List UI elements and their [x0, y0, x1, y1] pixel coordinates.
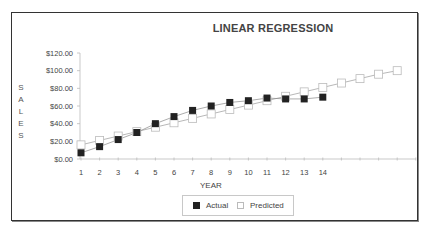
x-tick-label: 10: [244, 168, 252, 177]
y-tick-label: $60.00: [50, 102, 73, 111]
x-axis-label: YEAR: [200, 181, 222, 190]
x-tick-label: 13: [300, 168, 308, 177]
actual-point: [133, 129, 140, 136]
actual-point: [208, 103, 215, 110]
actual-point: [78, 149, 85, 156]
y-tick-label: $20.00: [50, 137, 73, 146]
predicted-point: [337, 79, 345, 87]
x-tick-label: 4: [135, 168, 139, 177]
series-line: [81, 97, 323, 153]
actual-point: [96, 143, 103, 150]
predicted-point: [356, 75, 364, 83]
filled-square-icon: [193, 202, 200, 209]
x-tick-label: 5: [153, 168, 157, 177]
legend-item-actual: Actual: [193, 201, 228, 210]
actual-point: [264, 95, 271, 102]
x-tick-label: 3: [116, 168, 120, 177]
x-tick-label: 2: [98, 168, 102, 177]
actual-point: [245, 97, 252, 104]
x-tick-label: 11: [263, 168, 271, 177]
predicted-point: [226, 106, 234, 114]
actual-point: [189, 107, 196, 114]
actual-point: [115, 136, 122, 143]
x-tick-label: 8: [209, 168, 213, 177]
actual-point: [301, 95, 308, 102]
y-tick-label: $40.00: [50, 119, 73, 128]
x-tick-label: 14: [319, 168, 327, 177]
legend-item-predicted: Predicted: [237, 201, 284, 210]
x-tick-label: 6: [172, 168, 176, 177]
open-square-icon: [237, 202, 244, 209]
chart-legend: Actual Predicted: [182, 195, 294, 216]
predicted-point: [207, 110, 215, 118]
y-tick-label: $100.00: [46, 66, 73, 75]
legend-label-actual: Actual: [206, 201, 228, 210]
predicted-point: [375, 70, 383, 78]
x-tick-label: 9: [228, 168, 232, 177]
predicted-point: [300, 88, 308, 96]
predicted-point: [393, 67, 401, 75]
actual-point: [319, 94, 326, 101]
predicted-point: [189, 114, 197, 122]
y-tick-label: $0.00: [54, 155, 73, 164]
actual-point: [226, 99, 233, 106]
series-line: [81, 71, 397, 145]
predicted-point: [77, 141, 85, 149]
x-tick-label: 7: [191, 168, 195, 177]
y-tick-label: $80.00: [50, 84, 73, 93]
predicted-point: [319, 83, 327, 91]
legend-label-predicted: Predicted: [250, 201, 284, 210]
actual-point: [152, 120, 159, 127]
actual-point: [282, 95, 289, 102]
y-tick-label: $120.00: [46, 49, 73, 58]
x-tick-label: 1: [79, 168, 83, 177]
actual-point: [171, 113, 178, 120]
x-tick-label: 12: [281, 168, 289, 177]
